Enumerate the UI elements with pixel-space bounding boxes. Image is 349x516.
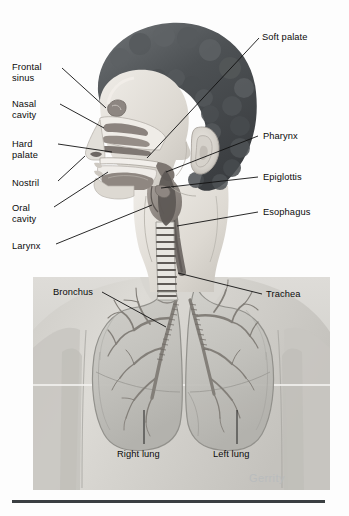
label-hard-palate: Hard palate [12,139,38,161]
anatomy-illustration [0,0,349,516]
label-left-lung: Left lung [213,449,250,460]
respiratory-system-figure: Frontal sinus Nasal cavity Hard palate N… [0,0,349,516]
label-soft-palate: Soft palate [262,32,308,43]
label-trachea: Trachea [266,289,300,300]
artist-signature: Gerrity [249,472,285,484]
head-sagittal-section [85,23,256,226]
label-nostril: Nostril [12,178,39,189]
leader-nostril [58,156,85,181]
label-pharynx: Pharynx [263,131,298,142]
label-epiglottis: Epiglottis [263,172,302,183]
label-frontal-sinus: Frontal sinus [12,62,42,84]
label-right-lung: Right lung [117,449,160,460]
bottom-rule [12,500,325,503]
label-esophagus: Esophagus [263,207,310,218]
label-nasal-cavity: Nasal cavity [12,99,36,121]
leader-nasal-cavity [60,104,104,128]
label-larynx: Larynx [12,241,41,252]
label-bronchus: Bronchus [53,287,93,298]
label-oral-cavity: Oral cavity [12,203,36,225]
